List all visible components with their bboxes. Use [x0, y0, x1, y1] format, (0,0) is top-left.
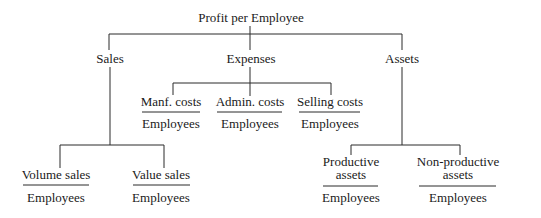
node-expenses: Expenses — [226, 52, 275, 66]
denominator-selling: Employees — [301, 117, 359, 131]
profit-per-employee-tree: Profit per Employee Sales Expenses Asset… — [0, 0, 541, 218]
denominator-manf: Employees — [142, 117, 200, 131]
node-productive-assets-line2: assets — [336, 168, 366, 182]
connector-lines — [0, 0, 541, 218]
node-nonproductive-assets-line2: assets — [443, 168, 473, 182]
node-selling-costs: Selling costs — [297, 95, 363, 109]
denominator-productive: Employees — [322, 191, 380, 205]
node-manf-costs: Manf. costs — [141, 95, 202, 109]
denominator-nonproductive: Employees — [429, 191, 487, 205]
denominator-volume: Employees — [27, 191, 85, 205]
node-value-sales: Value sales — [132, 168, 190, 182]
root-node: Profit per Employee — [198, 11, 303, 25]
node-volume-sales: Volume sales — [22, 168, 91, 182]
node-sales: Sales — [96, 52, 123, 66]
denominator-value: Employees — [132, 191, 190, 205]
node-assets: Assets — [385, 52, 419, 66]
denominator-admin: Employees — [221, 117, 279, 131]
node-admin-costs: Admin. costs — [216, 95, 285, 109]
